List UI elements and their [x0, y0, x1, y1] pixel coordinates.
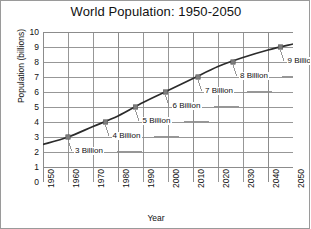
y-axis-tick-label: 10	[30, 28, 39, 37]
y-axis-title: Population (billions)	[16, 1, 26, 131]
y-axis-tick-label: 7	[34, 73, 39, 82]
data-point-marker	[133, 105, 137, 109]
y-axis-tick-label: 6	[34, 88, 39, 97]
data-point-marker	[278, 45, 282, 49]
x-axis-tick-label: 2040	[272, 169, 281, 188]
y-axis-tick-label: 1	[34, 163, 39, 172]
data-point-marker	[163, 90, 167, 94]
x-axis-tick-label: 2010	[197, 169, 206, 188]
milestone-label: 4 Billion	[112, 132, 142, 140]
chart-figure: World Population: 1950-2050 Population (…	[0, 0, 310, 229]
x-axis-tick-label: 1960	[72, 169, 81, 188]
x-axis-tick-label: 1950	[47, 169, 56, 188]
y-axis-tick-label: 0	[34, 178, 39, 187]
y-axis-tick-label: 2	[34, 148, 39, 157]
x-axis-tick-label: 2020	[222, 169, 231, 188]
milestone-label: 9 Billion	[287, 57, 311, 65]
x-axis-tick-label: 2050	[297, 169, 306, 188]
y-axis-tick-label: 8	[34, 58, 39, 67]
x-axis-title: Year	[1, 213, 310, 223]
y-axis-tick-label: 3	[34, 133, 39, 142]
y-axis-tick-label: 9	[34, 43, 39, 52]
x-axis-tick-label: 1990	[147, 169, 156, 188]
x-axis-tick-label: 2030	[247, 169, 256, 188]
data-point-marker	[196, 75, 200, 79]
milestone-label: 6 Billion	[172, 102, 202, 110]
data-point-marker	[231, 60, 235, 64]
data-point-marker	[103, 120, 107, 124]
chart-canvas	[43, 32, 293, 182]
x-axis-tick-label: 1970	[97, 169, 106, 188]
milestone-label: 3 Billion	[74, 147, 104, 155]
plot-area: 3 Billion4 Billion5 Billion6 Billion7 Bi…	[43, 32, 293, 182]
y-axis-tick-label: 4	[34, 118, 39, 127]
milestone-label: 7 Billion	[204, 87, 234, 95]
data-point-marker	[66, 135, 70, 139]
x-axis-tick-label: 2000	[172, 169, 181, 188]
milestone-label: 5 Billion	[142, 117, 172, 125]
chart-title: World Population: 1950-2050	[1, 4, 310, 19]
y-axis-tick-label: 5	[34, 103, 39, 112]
x-axis-tick-label: 1980	[122, 169, 131, 188]
milestone-label: 8 Billion	[239, 72, 269, 80]
